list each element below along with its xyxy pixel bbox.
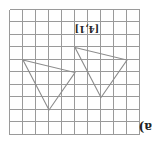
figure-stage: [4,1] a) xyxy=(0,0,159,146)
part-label: a) xyxy=(139,120,152,134)
grid-diagram xyxy=(0,0,159,146)
translation-vector-label: [4,1] xyxy=(75,24,99,34)
